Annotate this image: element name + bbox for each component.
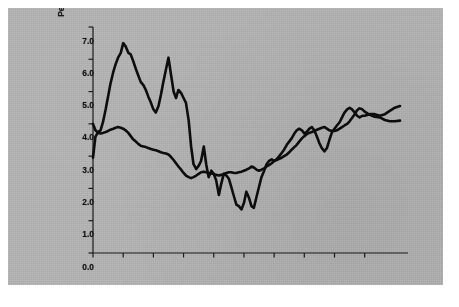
figure-root: Percentage annual change 7.0 6.0 5.0 4.0… <box>0 0 459 307</box>
series-line-1 <box>93 43 400 209</box>
data-series-group <box>93 43 400 209</box>
figure-caption <box>8 291 459 303</box>
plot-area <box>8 8 443 285</box>
chart-panel: Percentage annual change 7.0 6.0 5.0 4.0… <box>8 8 443 285</box>
series-line-2 <box>93 108 400 178</box>
